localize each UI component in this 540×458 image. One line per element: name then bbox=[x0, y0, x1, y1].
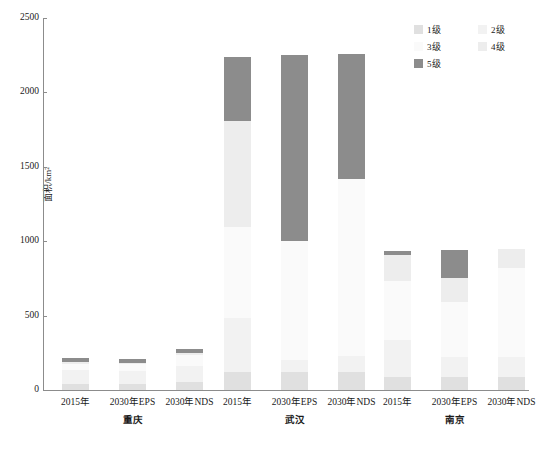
x-axis-group-label: 武汉 bbox=[255, 412, 335, 426]
bar-segment bbox=[176, 349, 203, 354]
legend-item: 4级 bbox=[478, 40, 530, 53]
bar-segment bbox=[498, 249, 525, 268]
y-axis-tick-label: 2500 bbox=[20, 12, 43, 22]
bar-segment bbox=[281, 360, 308, 373]
bar-segment bbox=[281, 241, 308, 359]
bar-stack bbox=[176, 18, 203, 390]
legend-item: 3级 bbox=[414, 40, 466, 53]
bar-stack bbox=[281, 18, 308, 390]
bar-segment bbox=[176, 366, 203, 382]
legend-swatch-icon bbox=[478, 25, 487, 34]
legend-item: 2级 bbox=[478, 23, 530, 36]
bar-segment bbox=[281, 372, 308, 390]
legend-swatch-icon bbox=[478, 42, 487, 51]
bar-segment bbox=[384, 340, 411, 376]
bar-stack bbox=[224, 18, 251, 390]
bar-segment bbox=[441, 302, 468, 357]
y-axis-tick-label: 500 bbox=[25, 310, 43, 320]
bar-segment bbox=[62, 358, 89, 362]
bar-segment bbox=[119, 359, 146, 363]
bar-stack bbox=[498, 18, 525, 390]
bar-segment bbox=[338, 356, 365, 372]
bar-stack bbox=[62, 18, 89, 390]
bar-segment bbox=[119, 363, 146, 364]
legend-label: 2级 bbox=[491, 23, 505, 36]
bar-segment bbox=[441, 278, 468, 303]
bar-stack bbox=[338, 18, 365, 390]
y-axis-tick-label: 1500 bbox=[20, 161, 43, 171]
bar-segment bbox=[441, 377, 468, 390]
legend-label: 3级 bbox=[427, 40, 441, 53]
legend-label: 1级 bbox=[427, 23, 441, 36]
x-axis-label: 2015年 bbox=[44, 394, 108, 408]
x-axis-label: 2030年EPS bbox=[263, 394, 327, 408]
legend-item: 1级 bbox=[414, 23, 466, 36]
bar-segment bbox=[224, 372, 251, 390]
bar-segment bbox=[498, 268, 525, 357]
chart-legend: 1级2级3级4级5级 bbox=[414, 23, 532, 70]
x-axis-label: 2030年NDS bbox=[480, 394, 540, 408]
bar-segment bbox=[224, 227, 251, 318]
x-axis-group-label: 南京 bbox=[415, 412, 495, 426]
x-axis-line bbox=[43, 390, 529, 391]
legend-swatch-icon bbox=[414, 59, 423, 68]
bar-segment bbox=[338, 54, 365, 179]
y-axis-tick-label: 0 bbox=[34, 384, 43, 394]
bar-segment bbox=[62, 364, 89, 370]
y-axis-tick-label: 2000 bbox=[20, 86, 43, 96]
bar-segment bbox=[119, 384, 146, 390]
bar-segment bbox=[176, 355, 203, 366]
y-axis-tick-mark bbox=[43, 390, 47, 391]
bar-segment bbox=[224, 57, 251, 120]
bar-segment bbox=[338, 179, 365, 356]
x-axis-label: 2030年EPS bbox=[423, 394, 487, 408]
bar-segment bbox=[498, 357, 525, 377]
bar-segment bbox=[384, 251, 411, 255]
legend-item: 5级 bbox=[414, 57, 466, 70]
plot-area bbox=[44, 18, 529, 390]
legend-swatch-icon bbox=[414, 25, 423, 34]
bar-segment bbox=[176, 382, 203, 390]
bar-segment bbox=[384, 255, 411, 281]
bar-segment bbox=[119, 364, 146, 370]
x-axis-label: 2015年 bbox=[206, 394, 270, 408]
bar-segment bbox=[119, 371, 146, 385]
x-axis-label: 2030年EPS bbox=[101, 394, 165, 408]
bar-stack bbox=[384, 18, 411, 390]
bar-segment bbox=[224, 318, 251, 372]
bar-segment bbox=[281, 55, 308, 241]
bar-segment bbox=[62, 384, 89, 390]
bar-stack bbox=[119, 18, 146, 390]
legend-label: 4级 bbox=[491, 40, 505, 53]
bar-segment bbox=[498, 377, 525, 390]
bar-segment bbox=[338, 372, 365, 390]
legend-label: 5级 bbox=[427, 57, 441, 70]
bar-segment bbox=[224, 121, 251, 227]
legend-swatch-icon bbox=[414, 42, 423, 51]
x-axis-group-label: 重庆 bbox=[93, 412, 173, 426]
bar-segment bbox=[62, 370, 89, 384]
bar-segment bbox=[384, 377, 411, 390]
bar-segment bbox=[176, 353, 203, 355]
bar-stack bbox=[441, 18, 468, 390]
y-axis-tick-label: 1000 bbox=[20, 235, 43, 245]
x-axis-label: 2015年 bbox=[366, 394, 430, 408]
bar-segment bbox=[384, 281, 411, 340]
bar-segment bbox=[441, 357, 468, 376]
bar-segment bbox=[441, 250, 468, 278]
bar-segment bbox=[62, 362, 89, 363]
